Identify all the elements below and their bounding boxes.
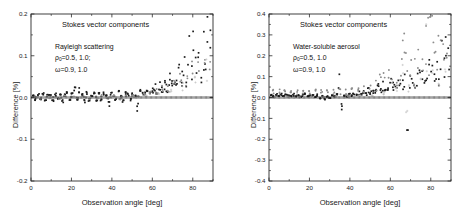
annotation-title-left: Stokes vector components xyxy=(62,20,149,29)
svg-text:0.1: 0.1 xyxy=(19,52,28,59)
svg-text:-0.4: -0.4 xyxy=(255,177,266,184)
svg-text:0.0: 0.0 xyxy=(257,94,266,101)
svg-text:60: 60 xyxy=(387,184,394,191)
svg-text:40: 40 xyxy=(346,184,353,191)
svg-text:20: 20 xyxy=(306,184,313,191)
param2-value-right: =0.9, 1.0 xyxy=(298,66,325,73)
svg-text:0.1: 0.1 xyxy=(257,73,266,80)
chart-panel-right: 0204060800.40.30.20.10.0-0.1-0.2-0.3-0.4… xyxy=(238,0,476,218)
annotation-param1-left: ρ0=0.5, 1.0; xyxy=(55,54,91,62)
svg-text:-0.3: -0.3 xyxy=(255,156,266,163)
svg-text:0.3: 0.3 xyxy=(257,31,266,38)
y-axis-label-left: Difference [%] xyxy=(11,82,20,128)
annotation-case-right: Water-soluble aerosol xyxy=(293,43,360,50)
annotation-param1-right: ρ0=0.5, 1.0 xyxy=(293,54,327,62)
svg-text:-0.2: -0.2 xyxy=(255,135,266,142)
svg-text:80: 80 xyxy=(189,184,196,191)
svg-text:20: 20 xyxy=(68,184,75,191)
svg-text:0: 0 xyxy=(267,184,271,191)
svg-text:40: 40 xyxy=(108,184,115,191)
annotation-case-left: Rayleigh scattering xyxy=(55,43,114,50)
svg-text:-0.1: -0.1 xyxy=(17,135,28,142)
figure-caption xyxy=(6,210,470,218)
svg-text:0.0: 0.0 xyxy=(19,94,28,101)
annotation-title-right: Stokes vector components xyxy=(300,20,387,29)
y-axis-label-right: Difference [%] xyxy=(249,82,258,128)
param1-value-right: =0.5, 1.0 xyxy=(300,54,327,61)
annotation-param2-right: ω=0.9, 1.0 xyxy=(293,66,325,73)
svg-text:0.2: 0.2 xyxy=(19,10,28,17)
param1-value-left: =0.5, 1.0; xyxy=(62,54,91,61)
param2-value-left: =0.9, 1.0 xyxy=(60,66,87,73)
svg-text:60: 60 xyxy=(149,184,156,191)
x-axis-label-right: Observation angle [deg] xyxy=(268,198,452,207)
plot-svg-right: 0204060800.40.30.20.10.0-0.1-0.2-0.3-0.4 xyxy=(238,0,476,218)
svg-text:-0.2: -0.2 xyxy=(17,177,28,184)
figure-container: 0204060800.20.10.0-0.1-0.2 Difference [%… xyxy=(0,0,476,218)
annotation-param2-left: ω=0.9, 1.0 xyxy=(55,66,87,73)
svg-text:80: 80 xyxy=(427,184,434,191)
svg-text:0.4: 0.4 xyxy=(257,10,266,17)
x-axis-label-left: Observation angle [deg] xyxy=(30,198,214,207)
plot-svg-left: 0204060800.20.10.0-0.1-0.2 xyxy=(0,0,238,218)
chart-panel-left: 0204060800.20.10.0-0.1-0.2 Difference [%… xyxy=(0,0,238,218)
svg-text:0: 0 xyxy=(29,184,33,191)
svg-text:0.2: 0.2 xyxy=(257,52,266,59)
